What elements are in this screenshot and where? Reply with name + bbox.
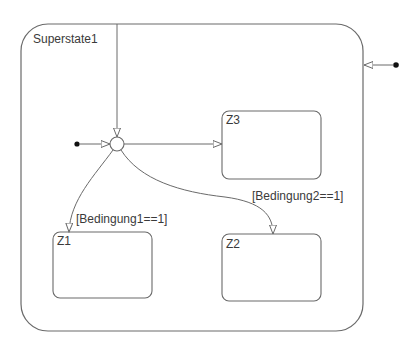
state-z1-label: Z1 [57,235,71,247]
guard-bedingung2: [Bedingung2==1] [252,190,343,202]
superstate-label: Superstate1 [33,33,98,45]
statechart-canvas [0,0,417,343]
default-transition-dot-inner [74,141,79,146]
state-z3-label: Z3 [226,114,240,126]
guard-bedingung1: [Bedingung1==1] [76,213,167,225]
superstate-box[interactable] [21,24,363,331]
default-transition-dot-outer [393,62,399,68]
state-z2-label: Z2 [226,238,240,250]
connective-junction[interactable] [110,137,124,151]
